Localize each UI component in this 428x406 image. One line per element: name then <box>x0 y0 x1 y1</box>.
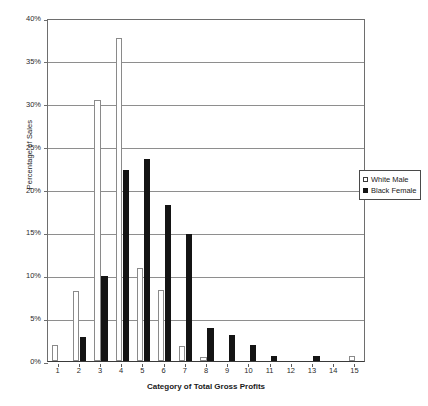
bar-black-female-cat-5 <box>144 159 150 361</box>
bar-white-male-cat-5 <box>137 268 143 361</box>
cut-off-caption <box>0 398 428 406</box>
y-tick-label: 0% <box>15 358 41 366</box>
legend-label: Black Female <box>371 187 416 195</box>
x-tick-label: 10 <box>244 367 252 375</box>
x-tick-label: 7 <box>183 367 187 375</box>
bar-black-female-cat-6 <box>165 205 171 361</box>
y-tick-label: 40% <box>15 15 41 23</box>
y-tick-label: 15% <box>15 229 41 237</box>
plot-area <box>47 19 365 362</box>
bar-black-female-cat-8 <box>207 328 213 361</box>
x-tick-label: 9 <box>225 367 229 375</box>
x-tick-label: 4 <box>119 367 123 375</box>
bar-white-male-cat-8 <box>200 357 206 361</box>
bar-white-male-cat-3 <box>94 100 100 361</box>
bar-black-female-cat-3 <box>101 276 107 361</box>
x-tick-label: 3 <box>98 367 102 375</box>
bar-black-female-cat-10 <box>250 345 256 361</box>
bar-black-female-cat-2 <box>80 337 86 361</box>
bar-black-female-cat-11 <box>271 356 277 361</box>
chart-legend: White Male Black Female <box>359 170 421 200</box>
x-tick-label: 15 <box>350 367 358 375</box>
bar-black-female-cat-4 <box>123 170 129 361</box>
bar-white-male-cat-1 <box>52 345 58 361</box>
legend-item-black-female: Black Female <box>363 185 416 196</box>
bar-white-male-cat-7 <box>179 346 185 361</box>
legend-item-white-male: White Male <box>363 174 416 185</box>
y-tick-label: 5% <box>15 315 41 323</box>
y-tick-label: 20% <box>15 187 41 195</box>
x-tick-label: 8 <box>204 367 208 375</box>
bar-white-male-cat-4 <box>116 38 122 361</box>
x-tick-label: 5 <box>140 367 144 375</box>
x-tick-label: 12 <box>287 367 295 375</box>
bar-black-female-cat-7 <box>186 234 192 361</box>
legend-swatch-white-square-icon <box>363 177 368 182</box>
x-tick-label: 6 <box>162 367 166 375</box>
x-axis-tick-labels: 123456789101112131415 <box>47 364 365 380</box>
y-tick-label: 35% <box>15 58 41 66</box>
legend-swatch-black-square-icon <box>363 188 368 193</box>
bar-black-female-cat-13 <box>313 356 319 361</box>
x-tick-label: 11 <box>266 367 274 375</box>
x-axis-title: Category of Total Gross Profits <box>47 382 365 391</box>
bar-chart: Percentage of Sales 0%5%10%15%20%25%30%3… <box>0 0 428 406</box>
bar-black-female-cat-9 <box>229 335 235 361</box>
bars-layer <box>48 20 364 361</box>
x-tick-label: 13 <box>308 367 316 375</box>
bar-white-male-cat-2 <box>73 291 79 361</box>
bar-white-male-cat-15 <box>349 356 355 361</box>
y-axis-tick-labels: 0%5%10%15%20%25%30%35%40% <box>10 0 41 406</box>
y-tick-label: 10% <box>15 272 41 280</box>
x-tick-label: 1 <box>56 367 60 375</box>
legend-label: White Male <box>371 176 409 184</box>
y-tick-label: 30% <box>15 101 41 109</box>
x-tick-label: 14 <box>329 367 337 375</box>
x-tick-label: 2 <box>77 367 81 375</box>
bar-white-male-cat-6 <box>158 290 164 361</box>
y-tick-label: 25% <box>15 144 41 152</box>
